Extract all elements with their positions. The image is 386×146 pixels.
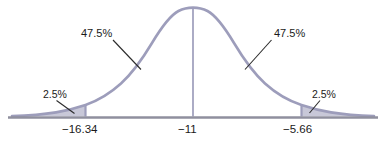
x-tick-label-upper: −5.66	[283, 124, 312, 136]
right-body-percent-label: 47.5%	[274, 28, 305, 39]
x-tick-label-lower: −16.34	[62, 124, 98, 136]
left-body-leader-line	[113, 40, 141, 70]
x-tick-label-mean: −11	[178, 124, 197, 136]
left-tail-percent-label: 2.5%	[43, 89, 67, 100]
right-tail-percent-label: 2.5%	[312, 89, 336, 100]
normal-distribution-figure: 2.5% 47.5% 47.5% 2.5% −16.34 −11 −5.66	[0, 0, 386, 146]
right-body-leader-line	[245, 40, 272, 70]
left-body-percent-label: 47.5%	[81, 28, 112, 39]
